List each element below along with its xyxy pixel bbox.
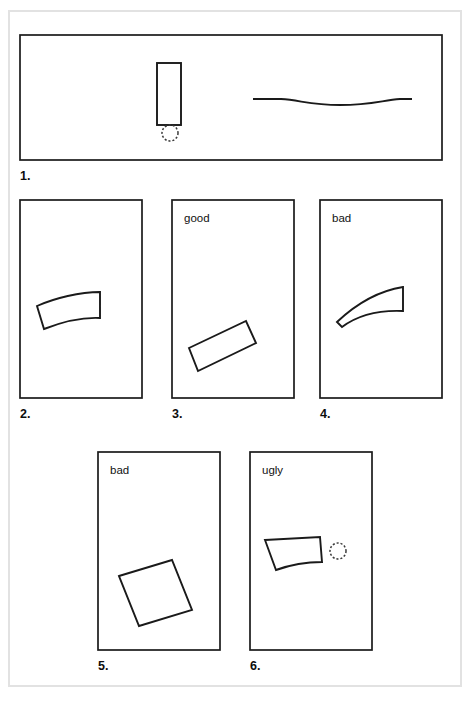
- panel-4-number: 4.: [320, 407, 330, 421]
- technical-diagram-canvas: 1. 2. good 3. bad 4. bad: [0, 0, 470, 709]
- panel-1-number: 1.: [20, 169, 30, 183]
- panel-1: 1.: [20, 35, 442, 183]
- panel-4: bad 4.: [320, 200, 442, 421]
- panel-3-label: good: [184, 212, 210, 224]
- panel-3: good 3.: [172, 200, 294, 421]
- panel-1-frame: [20, 35, 442, 160]
- panel-5-number: 5.: [98, 659, 108, 673]
- panel-6-number: 6.: [250, 659, 260, 673]
- panel-2: 2.: [20, 200, 142, 421]
- panel-2-number: 2.: [20, 407, 30, 421]
- panel-5: bad 5.: [98, 452, 220, 673]
- figure-root: 1. 2. good 3. bad 4. bad: [0, 0, 470, 709]
- panel-4-label: bad: [332, 212, 351, 224]
- panel-6: ugly 6.: [250, 452, 372, 673]
- panel-1-vertical-rectangle: [157, 63, 181, 125]
- panel-3-number: 3.: [172, 407, 182, 421]
- panel-5-label: bad: [110, 464, 129, 476]
- panel-3-frame: [172, 200, 294, 398]
- panel-6-label: ugly: [262, 464, 283, 476]
